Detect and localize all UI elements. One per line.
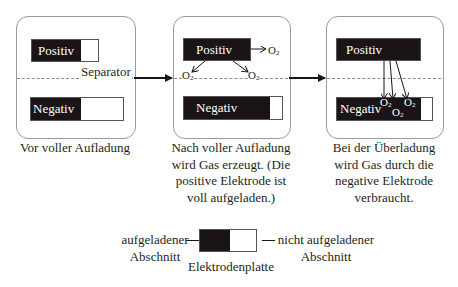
charged-section bbox=[200, 230, 230, 251]
caption-after-full-charge: Nach voller Aufladung wird Gas erzeugt. … bbox=[160, 140, 302, 206]
legend-uncharged-label: nicht aufgeladener Abschnitt bbox=[272, 232, 380, 265]
caption-line: Bei der Überladung bbox=[314, 140, 454, 157]
caption-line: Vor voller Aufladung bbox=[0, 140, 150, 157]
legend-line-left bbox=[186, 240, 200, 241]
legend-plate-label: Elektrodenplatte bbox=[176, 259, 286, 276]
caption-line: verbraucht. bbox=[314, 190, 454, 207]
legend-line: Abschnitt bbox=[272, 249, 380, 266]
gas-arrows-panel-2 bbox=[192, 49, 266, 72]
legend-electrode-plate bbox=[199, 229, 257, 252]
caption-overcharge: Bei der Überladung wird Gas durch die ne… bbox=[314, 140, 454, 206]
caption-line: negative Elektrode bbox=[314, 173, 454, 190]
legend-line: nicht aufgeladener bbox=[272, 232, 380, 249]
caption-line: positive Elektrode ist bbox=[160, 173, 302, 190]
caption-line: Nach voller Aufladung bbox=[160, 140, 302, 157]
caption-before-full-charge: Vor voller Aufladung bbox=[0, 140, 150, 157]
caption-line: wird Gas durch die bbox=[314, 157, 454, 174]
caption-line: wird Gas erzeugt. (Die bbox=[160, 157, 302, 174]
gas-arrows-panel-3 bbox=[384, 61, 407, 99]
caption-line: voll aufgeladen.) bbox=[160, 190, 302, 207]
